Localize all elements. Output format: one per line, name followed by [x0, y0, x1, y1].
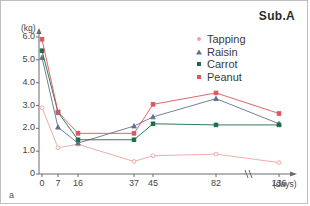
data-point-marker: [132, 138, 136, 142]
data-point-marker: [151, 154, 155, 158]
legend-marker-triangle-icon: [194, 47, 204, 57]
legend-item-raisin[interactable]: Raisin: [194, 46, 246, 59]
data-point-marker: [56, 110, 60, 114]
data-point-marker: [277, 123, 281, 127]
legend-item-carrot[interactable]: Carrot: [194, 58, 246, 71]
data-point-marker: [214, 96, 219, 100]
data-point-marker: [151, 122, 155, 126]
data-point-marker: [277, 161, 281, 165]
data-point-marker: [56, 125, 61, 129]
data-point-marker: [76, 132, 80, 136]
legend-item-peanut[interactable]: Peanut: [194, 71, 246, 84]
data-point-marker: [151, 103, 155, 107]
legend-label: Tapping: [207, 33, 246, 45]
y-axis-tick-label: 4.0: [3, 77, 35, 87]
data-point-marker: [76, 138, 80, 142]
data-point-marker: [40, 106, 44, 110]
y-axis-tick-label: 0: [3, 168, 35, 178]
legend-item-tapping[interactable]: Tapping: [194, 33, 246, 46]
data-point-marker: [132, 160, 136, 164]
legend-label: Raisin: [207, 46, 238, 58]
x-axis-title: (days): [273, 179, 297, 189]
x-axis-tick-label: 16: [64, 178, 92, 188]
chart-frame: Sub.A a TappingRaisinCarrotPeanut 01.02.…: [0, 0, 308, 204]
data-point-marker: [56, 146, 60, 150]
y-axis-tick-label: 1.0: [3, 145, 35, 155]
legend-marker-square-icon: [194, 72, 204, 82]
legend-marker-circle-icon: [194, 34, 204, 44]
chart-plot-area: [1, 1, 309, 205]
data-point-marker: [214, 152, 218, 156]
data-point-marker: [132, 124, 137, 128]
legend-label: Peanut: [207, 71, 242, 83]
y-axis-title: (kg): [21, 23, 36, 33]
data-point-marker: [214, 91, 218, 95]
x-axis-tick-label: 45: [139, 178, 167, 188]
legend-marker-square-icon: [194, 59, 204, 69]
data-point-marker: [277, 112, 281, 116]
data-point-marker: [40, 49, 44, 53]
x-axis-tick-label: 82: [202, 178, 230, 188]
data-point-marker: [132, 132, 136, 136]
legend-label: Carrot: [207, 58, 238, 70]
y-axis-tick-label: 2.0: [3, 122, 35, 132]
data-point-marker: [151, 115, 156, 119]
y-axis-tick-label: 5.0: [3, 54, 35, 64]
data-point-marker: [40, 37, 44, 41]
y-axis-tick-label: 3.0: [3, 100, 35, 110]
chart-legend: TappingRaisinCarrotPeanut: [194, 33, 246, 83]
data-point-marker: [214, 123, 218, 127]
